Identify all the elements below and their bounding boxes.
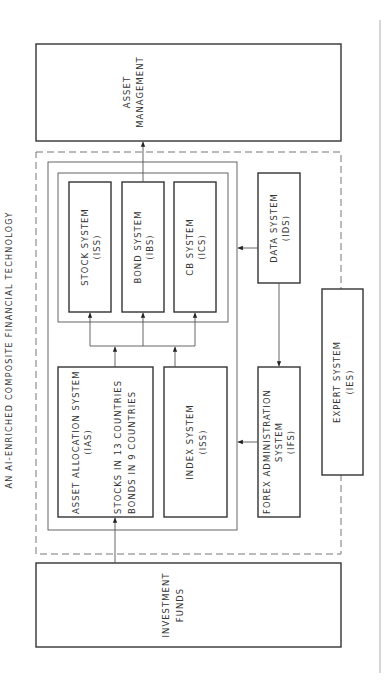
cb-system-abbr: (ICS) xyxy=(197,234,207,260)
expert-system-label: EXPERT SYSTEM xyxy=(332,341,342,423)
bond-system-abbr: (IBS) xyxy=(145,234,155,259)
data-system-box: DATA SYSTEM (IDS) xyxy=(258,173,300,283)
bond-system-box: BOND SYSTEM (IBS) xyxy=(122,182,164,312)
asset-allocation-label: ASSET ALLOCATION SYSTEM xyxy=(71,371,81,515)
investment-funds-box: INVESTMENT FUNDS xyxy=(36,563,341,647)
forex-system-label-2: SYSTEM xyxy=(274,422,284,462)
asset-management-label-2: MANAGEMENT xyxy=(135,56,145,127)
asset-management-box: ASSET MANAGEMENT xyxy=(36,44,341,141)
stock-system-abbr: (ISS) xyxy=(92,234,102,259)
bonds-countries-note: BONDS IN 9 COUNTRIES xyxy=(127,391,137,514)
forex-system-label: FOREX ADMINISTRATION xyxy=(262,389,272,514)
stock-system-label: STOCK SYSTEM xyxy=(80,208,90,286)
data-system-abbr: (IDS) xyxy=(281,215,291,241)
edge-bus-to-trading-systems xyxy=(90,313,195,367)
bond-system-label: BOND SYSTEM xyxy=(133,210,143,283)
expert-system-box: EXPERT SYSTEM (IES) xyxy=(322,289,363,475)
index-system-abbr: (ISS) xyxy=(198,429,208,454)
expert-system-abbr: (IES) xyxy=(345,369,355,394)
data-system-label: DATA SYSTEM xyxy=(269,193,279,263)
cb-system-box: CB SYSTEM (ICS) xyxy=(174,182,216,312)
asset-allocation-abbr: (IAS) xyxy=(83,429,93,455)
cb-system-label: CB SYSTEM xyxy=(185,218,195,276)
asset-management-label-1: ASSET xyxy=(122,76,132,108)
forex-system-abbr: (IFS) xyxy=(286,430,296,455)
investment-funds-label-2: FUNDS xyxy=(175,588,185,622)
diagram-title: AN AI-ENRICHED COMPOSITE FINANCIAL TECHN… xyxy=(5,211,14,488)
stocks-countries-note: STOCKS IN 13 COUNTRIES xyxy=(113,380,123,514)
stock-system-box: STOCK SYSTEM (ISS) xyxy=(69,182,111,312)
asset-allocation-box: ASSET ALLOCATION SYSTEM (IAS) STOCKS IN … xyxy=(58,367,153,517)
index-system-box: INDEX SYSTEM (ISS) xyxy=(164,367,227,517)
index-system-label: INDEX SYSTEM xyxy=(185,404,195,479)
diagram-canvas: AN AI-ENRICHED COMPOSITE FINANCIAL TECHN… xyxy=(0,0,391,687)
investment-funds-label-1: INVESTMENT xyxy=(161,572,171,637)
forex-system-box: FOREX ADMINISTRATION SYSTEM (IFS) xyxy=(258,367,300,517)
